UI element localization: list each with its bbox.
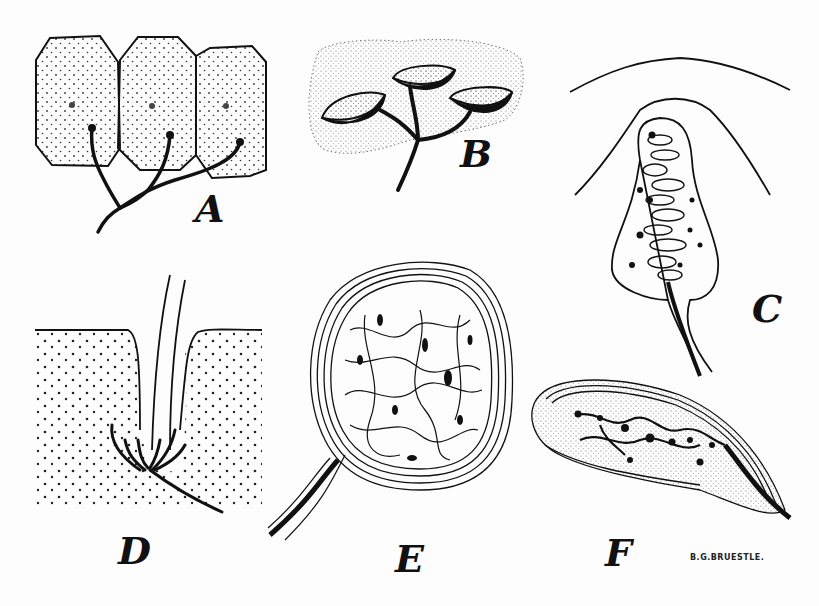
illustration-plate: A B C D E F B.G.BRUESTLE.: [0, 0, 819, 606]
artist-signature: B.G.BRUESTLE.: [690, 553, 764, 562]
panel-label-d: D: [118, 532, 151, 570]
panel-label-b: B: [460, 135, 492, 173]
panel-label-a: A: [195, 190, 224, 228]
panel-c-nerve-fiber: [668, 282, 700, 376]
panel-label-e: E: [395, 540, 424, 578]
panel-e-nerve-net: [345, 310, 482, 460]
panel-label-f: F: [605, 534, 632, 572]
panel-d-tissue: [35, 330, 262, 506]
panel-label-c: C: [752, 290, 782, 328]
panel-f-capsule: [532, 380, 785, 513]
panel-e-nerve-fiber: [268, 455, 345, 540]
drawing-canvas: [0, 0, 819, 606]
